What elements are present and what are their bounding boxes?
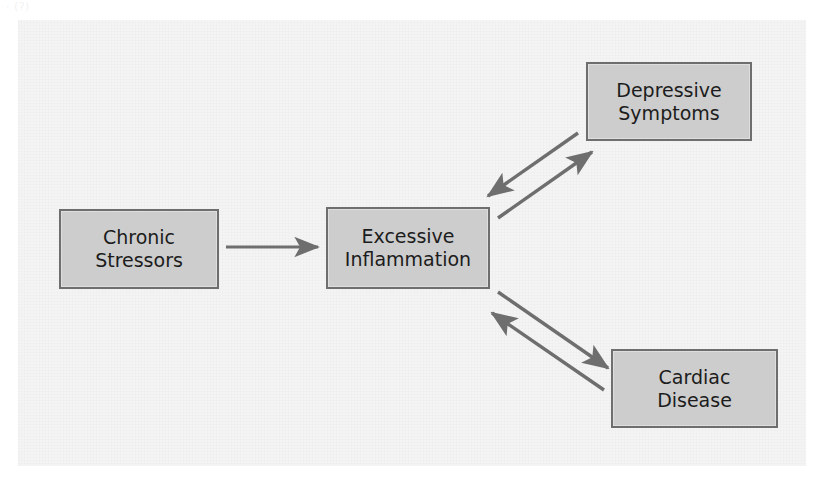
node-excessive-inflammation: Excessive Inflammation xyxy=(326,207,490,289)
arrow-depression-to-inflammation xyxy=(488,133,578,196)
node-chronic-stressors-label: Chronic Stressors xyxy=(95,226,183,272)
node-depressive-symptoms: Depressive Symptoms xyxy=(586,62,752,141)
node-chronic-stressors: Chronic Stressors xyxy=(59,209,219,289)
node-excessive-inflammation-label: Excessive Inflammation xyxy=(345,225,471,271)
node-cardiac-disease: Cardiac Disease xyxy=(611,349,778,428)
arrow-inflammation-to-depression xyxy=(498,152,592,218)
edge-inflammation-to-depression xyxy=(488,133,592,218)
node-depressive-symptoms-label: Depressive Symptoms xyxy=(616,79,721,125)
edge-inflammation-to-cardiac xyxy=(492,292,608,390)
node-cardiac-disease-label: Cardiac Disease xyxy=(657,366,732,412)
